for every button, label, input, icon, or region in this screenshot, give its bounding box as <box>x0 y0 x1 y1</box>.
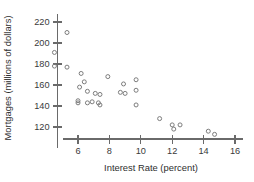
x-tick-label: 8 <box>107 146 112 156</box>
data-point <box>134 88 138 92</box>
y-tick-label: 200 <box>34 38 49 48</box>
data-point <box>206 129 210 133</box>
data-point <box>98 92 102 96</box>
x-tick-label-group: 6810121416 <box>75 146 240 156</box>
data-point <box>118 90 122 94</box>
data-point <box>65 31 69 35</box>
data-point <box>93 91 97 95</box>
scatter-chart: 120140160180200220 6810121416 Interest R… <box>0 0 254 182</box>
data-point <box>158 117 162 121</box>
data-point <box>170 123 174 127</box>
x-axis-title: Interest Rate (percent) <box>104 162 198 173</box>
data-point <box>52 50 56 54</box>
data-point <box>172 127 176 131</box>
data-point <box>134 78 138 82</box>
x-tick-label: 6 <box>75 146 80 156</box>
plot-svg: 120140160180200220 6810121416 Interest R… <box>0 0 254 182</box>
data-point <box>82 80 86 84</box>
y-tick-label: 180 <box>34 59 49 69</box>
data-point-group <box>52 31 216 137</box>
x-tick-label: 14 <box>198 146 208 156</box>
data-point <box>85 101 89 105</box>
y-axis-title: Mortgages (millions of dollars) <box>2 15 13 140</box>
y-tick-label: 220 <box>34 17 49 27</box>
data-point <box>65 65 69 69</box>
data-point <box>79 71 83 75</box>
y-tick-label: 120 <box>34 122 49 132</box>
x-tick-label: 10 <box>136 146 146 156</box>
data-point <box>178 123 182 127</box>
x-tick-label: 12 <box>167 146 177 156</box>
data-point <box>123 91 127 95</box>
x-tick-label: 16 <box>230 146 240 156</box>
data-point <box>90 100 94 104</box>
data-point <box>106 75 110 79</box>
y-tick-label: 160 <box>34 80 49 90</box>
data-point <box>78 85 82 89</box>
y-tick-label-group: 120140160180200220 <box>34 17 49 132</box>
data-point <box>85 89 89 93</box>
y-tick-label: 140 <box>34 101 49 111</box>
data-point <box>213 132 217 136</box>
data-point <box>122 82 126 86</box>
data-point <box>52 64 56 68</box>
data-point <box>134 103 138 107</box>
